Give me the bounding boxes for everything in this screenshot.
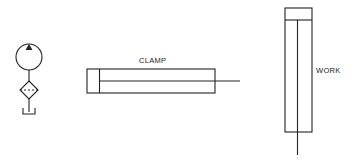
work-label: WORK <box>316 66 341 75</box>
clamp-label: CLAMP <box>139 56 166 65</box>
hydraulic-schematic: CLAMP WORK <box>0 0 361 161</box>
work-cylinder <box>285 8 312 155</box>
filter-symbol-icon <box>20 81 38 112</box>
clamp-cylinder <box>87 69 240 93</box>
pump-symbol-icon <box>16 44 42 81</box>
